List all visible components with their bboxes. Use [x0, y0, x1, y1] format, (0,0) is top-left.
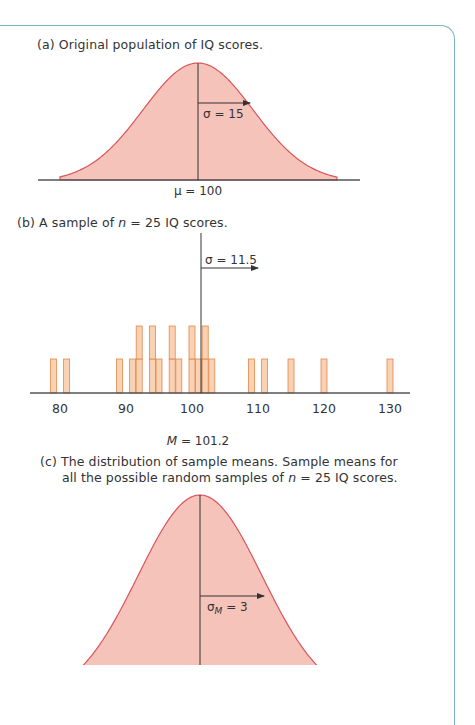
histogram-bar [169, 326, 175, 359]
panel-b-tick-labels: 8090100110120130 [52, 401, 402, 416]
x-tick-label: 100 [180, 401, 204, 416]
histogram-bar [149, 326, 155, 359]
histogram-bar [149, 359, 155, 393]
histogram-bar [202, 359, 208, 393]
histogram-bar [262, 359, 268, 393]
panel-a-sigma-label: σ = 15 [203, 107, 244, 121]
histogram-bar [130, 359, 136, 393]
panel-b-mean-label: M = 101.2 [167, 434, 229, 448]
histogram-bar [248, 359, 254, 393]
panel-a-chart: σ = 15 μ = 100 [38, 63, 360, 198]
histogram-bar [156, 359, 162, 393]
histogram-bar [136, 326, 142, 359]
panel-c-chart: σM = 3 [40, 495, 360, 665]
panel-b-sigma-label: σ = 11.5 [205, 253, 257, 267]
histogram-bar [189, 359, 195, 393]
x-tick-label: 110 [246, 401, 270, 416]
sample-histogram-bars [50, 326, 393, 393]
histogram-bar [387, 359, 393, 393]
histogram-bar [202, 326, 208, 359]
histogram-bar [64, 359, 70, 393]
histogram-bar [116, 359, 122, 393]
histogram-bar [169, 359, 175, 393]
panel-c-sigma-label: σM = 3 [207, 600, 248, 616]
histogram-bar [189, 326, 195, 359]
histogram-bar [50, 359, 56, 393]
panel-b-chart: σ = 11.5 8090100110120130 M = 101.2 [30, 233, 410, 448]
x-tick-label: 120 [312, 401, 336, 416]
histogram-bar [209, 359, 215, 393]
panel-a-mean-label: μ = 100 [174, 184, 222, 198]
histogram-bar [321, 359, 327, 393]
x-tick-label: 80 [52, 401, 68, 416]
histogram-bar [136, 359, 142, 393]
x-tick-label: 130 [378, 401, 402, 416]
x-tick-label: 90 [118, 401, 134, 416]
histogram-bar [288, 359, 294, 393]
histogram-bar [176, 359, 182, 393]
